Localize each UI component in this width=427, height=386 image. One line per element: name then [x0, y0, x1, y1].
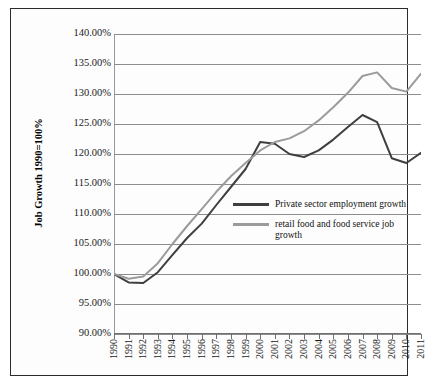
legend-item: Private sector employment growth [233, 199, 408, 210]
chart-container: Job Growth 1990=100% 140.00%135.00%130.0… [10, 8, 408, 376]
x-axis-tick-mark [158, 334, 159, 339]
x-axis-tick-mark [333, 334, 334, 339]
x-axis-tick-label: 1993 [152, 339, 164, 359]
x-axis-tick-mark [246, 334, 247, 339]
x-axis-tick-label: 2007 [357, 339, 369, 359]
y-axis-tick-label: 135.00% [27, 58, 111, 68]
plot-area [114, 34, 421, 334]
x-axis-tick-label: 1991 [123, 339, 135, 359]
x-axis-tick-mark [319, 334, 320, 339]
x-axis-tick-mark [114, 334, 115, 339]
y-axis-tick-label: 105.00% [27, 238, 111, 248]
x-axis-tick-label: 2008 [371, 339, 383, 359]
x-axis-tick-mark [143, 334, 144, 339]
x-axis-tick-mark [187, 334, 188, 339]
legend-item-label: Private sector employment growth [275, 199, 408, 210]
x-axis-tick-label: 1998 [225, 339, 237, 359]
x-axis-tick-label: 1996 [196, 339, 208, 359]
x-axis-tick-mark [363, 334, 364, 339]
x-axis-tick-label: 1990 [108, 339, 120, 359]
x-axis-tick-label: 2010 [400, 339, 412, 359]
x-axis-tick-mark [231, 334, 232, 339]
y-axis-labels: 140.00%135.00%130.00%125.00%120.00%115.0… [19, 9, 111, 386]
x-axis-tick-mark [392, 334, 393, 339]
x-axis-tick-mark [275, 334, 276, 339]
y-axis-tick-label: 110.00% [27, 208, 111, 218]
y-axis-tick-label: 115.00% [27, 178, 111, 188]
legend-item-label: retail food and food service job growth [275, 219, 408, 241]
x-axis-tick-mark [348, 334, 349, 339]
x-axis-tick-mark [406, 334, 407, 339]
x-axis-tick-label: 1992 [137, 339, 149, 359]
y-axis-tick-label: 100.00% [27, 268, 111, 278]
x-axis-tick-label: 2006 [342, 339, 354, 359]
x-axis-tick-mark [377, 334, 378, 339]
x-axis-tick-label: 1994 [166, 339, 178, 359]
y-axis-tick-label: 90.00% [27, 328, 111, 338]
gridline [114, 334, 421, 335]
legend-swatch-icon [233, 203, 269, 206]
x-axis-tick-label: 1995 [181, 339, 193, 359]
x-axis-tick-label: 2002 [283, 339, 295, 359]
x-axis-tick-label: 1997 [210, 339, 222, 359]
x-axis-tick-label: 2005 [327, 339, 339, 359]
legend-swatch-icon [233, 223, 269, 226]
x-axis-tick-label: 2000 [254, 339, 266, 359]
y-axis-tick-label: 140.00% [27, 28, 111, 38]
x-axis-tick-mark [304, 334, 305, 339]
x-axis-tick-label: 2003 [298, 339, 310, 359]
x-axis-tick-mark [260, 334, 261, 339]
series-lines [114, 34, 421, 334]
x-axis-tick-mark [216, 334, 217, 339]
x-axis-tick-mark [202, 334, 203, 339]
y-axis-tick-label: 130.00% [27, 88, 111, 98]
x-axis-tick-mark [172, 334, 173, 339]
x-axis-tick-label: 2011 [415, 339, 427, 359]
legend-item: retail food and food service job growth [233, 219, 408, 241]
x-axis-tick-label: 2001 [269, 339, 281, 359]
chart-legend: Private sector employment growthretail f… [233, 199, 408, 250]
x-axis-tick-mark [129, 334, 130, 339]
x-axis-tick-mark [421, 334, 422, 339]
x-axis-tick-label: 2004 [313, 339, 325, 359]
x-axis-tick-mark [289, 334, 290, 339]
y-axis-tick-label: 125.00% [27, 118, 111, 128]
x-axis-tick-label: 2009 [386, 339, 398, 359]
y-axis-tick-label: 120.00% [27, 148, 111, 158]
x-axis-tick-label: 1999 [240, 339, 252, 359]
y-axis-tick-label: 95.00% [27, 298, 111, 308]
